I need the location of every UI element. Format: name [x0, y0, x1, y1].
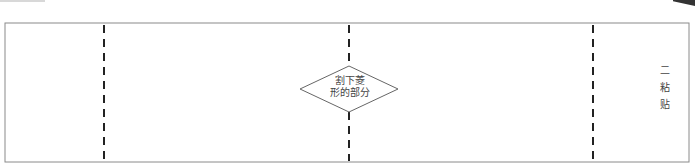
diamond-label-line2: 形的部分: [310, 87, 390, 99]
diamond-label: 割下菱 形的部分: [310, 75, 390, 99]
diamond-label-line1: 割下菱: [310, 75, 390, 87]
side-glue-label: 二 粘 贴: [649, 65, 669, 111]
